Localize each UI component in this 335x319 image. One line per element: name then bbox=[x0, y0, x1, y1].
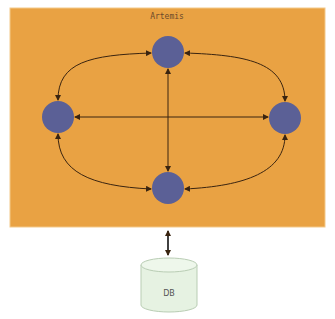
node-left bbox=[42, 101, 74, 133]
node-top bbox=[152, 36, 184, 68]
container-title: Artemis bbox=[150, 12, 184, 21]
database-cylinder: DB bbox=[141, 258, 197, 312]
node-bottom bbox=[152, 172, 184, 204]
node-right bbox=[269, 102, 301, 134]
architecture-diagram: Artemis DB bbox=[0, 0, 335, 319]
database-label: DB bbox=[163, 289, 175, 298]
